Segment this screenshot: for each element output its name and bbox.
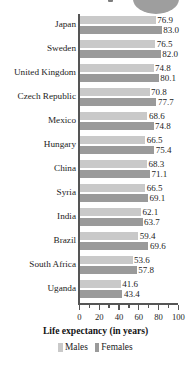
bar-females: [80, 266, 137, 274]
bar-females: [80, 122, 154, 130]
x-tick-major: [79, 305, 80, 310]
x-axis: 020406080100 Life expectancy (in years) …: [0, 303, 191, 369]
bar-group: 74.880.1: [80, 64, 190, 85]
bar-row: Mexico68.674.8: [0, 110, 191, 134]
bar-group: 68.674.8: [80, 112, 190, 133]
bar-males: [80, 256, 133, 264]
category-label: Sweden: [0, 43, 76, 54]
bar-row: Sweden76.582.0: [0, 38, 191, 62]
x-tick-label: 20: [95, 312, 104, 322]
x-tick-label: 80: [154, 312, 163, 322]
x-tick-minor: [89, 305, 90, 308]
value-label-females: 71.1: [151, 170, 167, 179]
bar-males: [80, 64, 154, 72]
x-tick-minor: [128, 305, 129, 308]
value-label-males: 41.6: [122, 280, 138, 289]
value-label-males: 76.9: [157, 16, 173, 25]
x-tick-label: 100: [172, 312, 185, 322]
bar-rows: Japan76.983.0Sweden76.582.0United Kingdo…: [0, 14, 191, 302]
value-label-males: 76.5: [157, 40, 173, 49]
bar-row: United Kingdom74.880.1: [0, 62, 191, 86]
bar-males: [80, 16, 156, 24]
bar-females: [80, 26, 162, 34]
x-tick-label: 60: [135, 312, 144, 322]
bar-females: [80, 218, 143, 226]
x-tick-major: [118, 305, 119, 310]
bar-row: Syria66.569.1: [0, 182, 191, 206]
category-label: Brazil: [0, 235, 76, 246]
small-gray-square-icon: [108, 0, 113, 2]
legend-label: Males: [65, 342, 88, 352]
bar-group: 53.657.8: [80, 256, 190, 277]
x-tick-label: 0: [77, 312, 81, 322]
bar-males: [80, 184, 146, 192]
value-label-males: 53.6: [134, 256, 150, 265]
legend-swatch-icon: [95, 343, 100, 352]
bar-group: 76.983.0: [80, 16, 190, 37]
value-label-females: 80.1: [160, 74, 176, 83]
x-tick-minor: [168, 305, 169, 308]
value-label-females: 82.0: [162, 50, 178, 59]
legend-item-females[interactable]: Females: [95, 342, 133, 352]
bar-males: [80, 136, 146, 144]
bar-males: [80, 160, 148, 168]
category-label: Mexico: [0, 115, 76, 126]
bar-row: India62.163.7: [0, 206, 191, 230]
value-label-females: 69.6: [150, 242, 166, 251]
x-axis-title: Life expectancy (in years): [0, 325, 191, 336]
bar-females: [80, 146, 155, 154]
bar-group: 66.575.4: [80, 136, 190, 157]
life-expectancy-bar-chart: Japan76.983.0Sweden76.582.0United Kingdo…: [0, 0, 191, 369]
value-label-females: 77.7: [158, 98, 174, 107]
bar-row: Hungary66.575.4: [0, 134, 191, 158]
bar-females: [80, 74, 159, 82]
bar-females: [80, 290, 123, 298]
value-label-males: 70.8: [151, 88, 167, 97]
bar-group: 66.569.1: [80, 184, 190, 205]
legend-item-males[interactable]: Males: [58, 342, 87, 352]
value-label-females: 57.8: [138, 266, 154, 275]
category-label: South Africa: [0, 259, 76, 270]
bar-males: [80, 208, 141, 216]
bar-group: 62.163.7: [80, 208, 190, 229]
bar-row: Czech Republic70.877.7: [0, 86, 191, 110]
bar-row: China68.371.1: [0, 158, 191, 182]
x-tick-minor: [108, 305, 109, 308]
value-label-females: 74.8: [155, 122, 171, 131]
bar-row: Uganda41.643.4: [0, 278, 191, 302]
bar-row: Japan76.983.0: [0, 14, 191, 38]
x-tick-minor: [148, 305, 149, 308]
rounded-gray-shape-icon: [133, 0, 179, 14]
value-label-males: 68.6: [149, 112, 165, 121]
category-label: China: [0, 163, 76, 174]
bar-females: [80, 242, 149, 250]
x-tick-major: [178, 305, 179, 310]
category-label: Syria: [0, 187, 76, 198]
bar-males: [80, 280, 121, 288]
value-label-females: 83.0: [163, 26, 179, 35]
legend-label: Females: [101, 342, 132, 352]
category-label: United Kingdom: [0, 67, 76, 78]
bar-females: [80, 170, 150, 178]
bar-group: 68.371.1: [80, 160, 190, 181]
bar-females: [80, 50, 161, 58]
bar-group: 76.582.0: [80, 40, 190, 61]
value-label-males: 66.5: [147, 184, 163, 193]
value-label-males: 62.1: [142, 208, 158, 217]
legend-swatch-icon: [58, 343, 63, 352]
bar-group: 59.469.6: [80, 232, 190, 253]
value-label-females: 43.4: [124, 290, 140, 299]
bar-row: Brazil59.469.6: [0, 230, 191, 254]
bar-males: [80, 40, 156, 48]
x-tick-major: [138, 305, 139, 310]
value-label-males: 59.4: [140, 232, 156, 241]
top-decoration-crop: [0, 0, 191, 14]
bar-row: South Africa53.657.8: [0, 254, 191, 278]
category-label: Japan: [0, 19, 76, 30]
bar-females: [80, 98, 157, 106]
value-label-females: 75.4: [156, 146, 172, 155]
value-label-males: 68.3: [149, 160, 165, 169]
category-label: Czech Republic: [0, 91, 76, 102]
x-tick-major: [99, 305, 100, 310]
value-label-females: 63.7: [144, 218, 160, 227]
